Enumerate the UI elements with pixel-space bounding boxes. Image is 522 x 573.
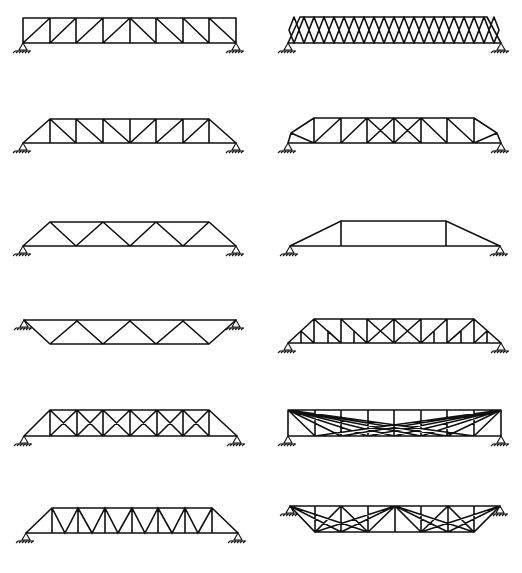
pin-support-icon xyxy=(13,143,31,153)
truss-t8 xyxy=(278,319,509,353)
pin-support-icon xyxy=(13,246,31,256)
pin-support-icon xyxy=(278,343,296,353)
truss-figure xyxy=(0,0,522,573)
truss-t4 xyxy=(278,118,509,153)
truss-t1 xyxy=(13,18,244,53)
pin-support-icon xyxy=(226,320,244,330)
pin-support-icon xyxy=(227,436,245,446)
pin-support-icon xyxy=(490,246,508,256)
truss-t11 xyxy=(16,508,246,543)
pin-support-icon xyxy=(280,246,298,256)
pin-support-icon xyxy=(491,143,509,153)
pin-support-icon xyxy=(278,43,296,53)
pin-support-icon xyxy=(14,436,32,446)
pin-support-icon xyxy=(226,143,244,153)
truss-t12 xyxy=(280,506,508,532)
pin-support-icon xyxy=(491,343,509,353)
pin-support-icon xyxy=(278,436,296,446)
pin-support-icon xyxy=(228,533,246,543)
pin-support-icon xyxy=(16,533,34,543)
pin-support-icon xyxy=(278,143,296,153)
pin-support-icon xyxy=(226,43,244,53)
pin-support-icon xyxy=(226,246,244,256)
pin-support-icon xyxy=(491,436,509,446)
truss-t10 xyxy=(278,410,509,446)
pin-support-icon xyxy=(490,506,508,516)
truss-t6 xyxy=(280,221,508,256)
truss-t5 xyxy=(13,222,244,256)
pin-support-icon xyxy=(13,43,31,53)
truss-t7 xyxy=(14,320,244,344)
pin-support-icon xyxy=(491,43,509,53)
truss-t2 xyxy=(278,17,509,53)
truss-t9 xyxy=(14,410,245,446)
truss-t3 xyxy=(13,119,244,153)
